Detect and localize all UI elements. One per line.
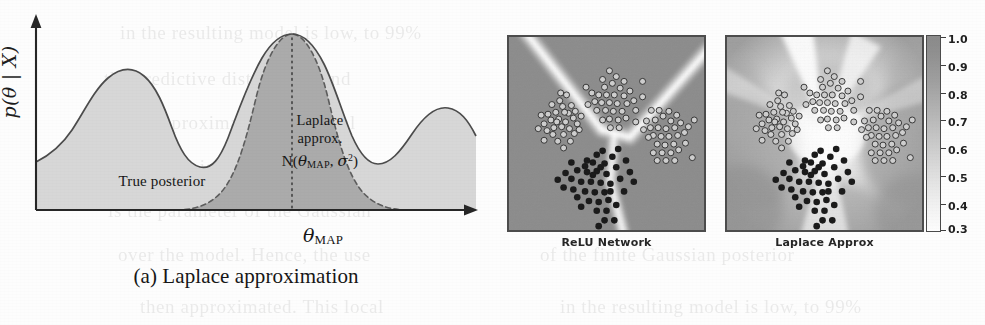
figure-page: in the resulting model is low, to 99% th… bbox=[0, 0, 985, 325]
normal-separator: , bbox=[330, 153, 338, 169]
y-axis-label: p(θ | X) bbox=[0, 12, 21, 152]
x-axis-label-theta-map: θMAP bbox=[268, 224, 378, 248]
laplace-plot-svg bbox=[28, 12, 480, 252]
colorbar-tick bbox=[941, 204, 946, 205]
colorbar-tick bbox=[941, 120, 946, 121]
colorbar-label-0-9: 0.9 bbox=[948, 60, 968, 73]
colorbar: 1.0 0.9 0.8 0.7 0.6 0.5 0.4 0.3 bbox=[926, 35, 982, 232]
colorbar-label-0-3: 0.3 bbox=[948, 223, 968, 236]
colorbar-label-1-0: 1.0 bbox=[948, 33, 968, 46]
colorbar-tick bbox=[941, 93, 946, 94]
heatmap-relu-network bbox=[507, 35, 706, 232]
figure-container: p(θ | X) bbox=[0, 0, 985, 325]
annotation-normal-distribution: N(θMAP, σ2) bbox=[252, 152, 388, 170]
annotation-laplace-line2: approx. bbox=[266, 130, 374, 148]
laplace-plot-canvas bbox=[28, 12, 480, 252]
subfigure-b-ood-detection: ReLU Network Laplace Approx 1.0 0.9 0.8 … bbox=[492, 0, 985, 325]
colorbar-label-0-7: 0.7 bbox=[948, 116, 968, 129]
heatmap-laplace-approx bbox=[725, 35, 924, 232]
colorbar-tick bbox=[941, 148, 946, 149]
colorbar-tick bbox=[941, 176, 946, 177]
colorbar-label-0-6: 0.6 bbox=[948, 144, 968, 157]
y-axis-arrowhead bbox=[31, 14, 42, 28]
relu-heatmap-svg bbox=[509, 37, 704, 230]
colorbar-tick bbox=[941, 37, 946, 38]
annotation-true-posterior: True posterior bbox=[92, 173, 232, 190]
y-axis-label-text: p(θ | X) bbox=[0, 46, 20, 119]
annotation-laplace-line1: Laplace bbox=[266, 112, 374, 130]
laplace-heatmap-svg bbox=[727, 37, 922, 230]
normal-theta: θ bbox=[298, 152, 307, 170]
colorbar-label-0-5: 0.5 bbox=[948, 172, 968, 185]
colorbar-tick bbox=[941, 230, 946, 231]
subfigure-a-laplace-approximation: p(θ | X) bbox=[0, 0, 492, 325]
colorbar-label-0-8: 0.8 bbox=[948, 88, 968, 101]
colorbar-tick bbox=[941, 65, 946, 66]
normal-sigma: σ bbox=[338, 152, 348, 170]
subfigure-a-caption: (a) Laplace approximation bbox=[0, 264, 492, 289]
annotation-laplace-approx: Laplace approx. bbox=[266, 112, 374, 147]
colorbar-gradient bbox=[926, 35, 941, 232]
normal-prefix: N( bbox=[282, 153, 298, 169]
theta-symbol: θ bbox=[303, 224, 315, 246]
panel-title-relu-network: ReLU Network bbox=[507, 236, 706, 249]
panel-title-laplace-approx: Laplace Approx bbox=[725, 236, 924, 249]
colorbar-label-0-4: 0.4 bbox=[948, 199, 968, 212]
theta-subscript-map: MAP bbox=[315, 232, 344, 247]
normal-suffix: ) bbox=[353, 153, 358, 169]
normal-theta-subscript: MAP bbox=[307, 159, 330, 170]
